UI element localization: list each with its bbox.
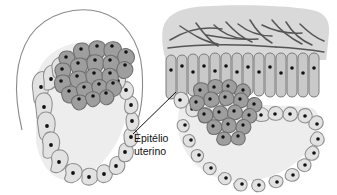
endometrial-stroma: [162, 5, 329, 60]
right-panel-implanting-blastocyst: [162, 5, 329, 191]
label-epitelio-line2: uterino: [134, 145, 166, 157]
label-epitelio-uterino: Epitélio uterino: [133, 92, 176, 157]
figure-root: Epitélio uterino: [0, 0, 337, 195]
label-epitelio-line1: Epitélio: [134, 132, 169, 144]
left-panel-free-blastocyst: [16, 10, 142, 185]
implantation-diagram: Epitélio uterino: [0, 0, 337, 195]
